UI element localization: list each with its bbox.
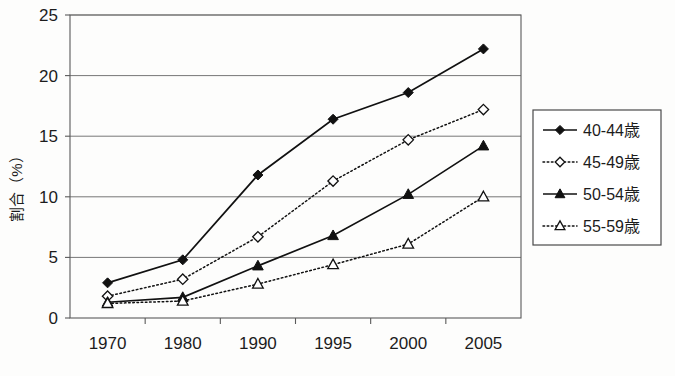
data-point-open-triangle: [403, 238, 414, 248]
series-45-49歳: [102, 104, 488, 301]
x-axis-tick-label: 1980: [164, 334, 202, 353]
data-point-open-triangle: [478, 191, 489, 201]
legend-label: 45-49歳: [583, 154, 640, 171]
series-line: [108, 49, 484, 283]
data-point-open-triangle: [328, 259, 339, 269]
y-axis-tick-labels: 0510152025: [39, 6, 58, 328]
data-point-filled-diamond: [403, 88, 413, 98]
x-axis-tick-label: 1995: [314, 334, 352, 353]
data-point-filled-triangle: [328, 230, 339, 240]
x-axis-tick-label: 2000: [389, 334, 427, 353]
legend-label: 40-44歳: [583, 122, 640, 139]
data-point-open-diamond: [253, 232, 263, 242]
plot-area-border: [70, 15, 521, 318]
line-chart: 0510152025 197019801990199520002005 割合（%…: [0, 0, 675, 376]
y-axis-tick-label: 10: [39, 188, 58, 207]
data-point-filled-diamond: [478, 44, 488, 54]
y-axis-tick-label: 15: [39, 127, 58, 146]
x-axis-tick-label: 2005: [465, 334, 503, 353]
y-axis-tick-label: 0: [49, 309, 58, 328]
x-axis-tick-labels: 197019801990199520002005: [89, 334, 503, 353]
legend-label: 50-54歳: [583, 186, 640, 203]
chart-legend: 40-44歳45-49歳50-54歳55-59歳: [533, 110, 661, 245]
y-axis-tick-label: 5: [49, 248, 58, 267]
x-tick-marks: [145, 318, 446, 324]
data-point-filled-triangle: [403, 189, 414, 199]
legend-label: 55-59歳: [583, 218, 640, 235]
x-axis-tick-label: 1970: [89, 334, 127, 353]
y-axis-tick-label: 20: [39, 67, 58, 86]
gridlines: [70, 15, 521, 257]
data-point-filled-triangle: [478, 140, 489, 150]
x-axis-tick-label: 1990: [239, 334, 277, 353]
data-point-open-diamond: [328, 176, 338, 186]
series-line: [108, 146, 484, 302]
series-50-54歳: [102, 140, 488, 306]
y-axis-tick-label: 25: [39, 6, 58, 25]
data-point-open-diamond: [178, 274, 188, 284]
chart-figure: 0510152025 197019801990199520002005 割合（%…: [0, 0, 675, 376]
y-axis-title: 割合（%）: [8, 148, 25, 221]
data-series: [102, 44, 488, 308]
data-point-open-diamond: [478, 104, 488, 114]
y-axis-title-text: 割合（%）: [8, 148, 25, 221]
series-line: [108, 110, 484, 297]
data-point-filled-diamond: [103, 278, 113, 288]
